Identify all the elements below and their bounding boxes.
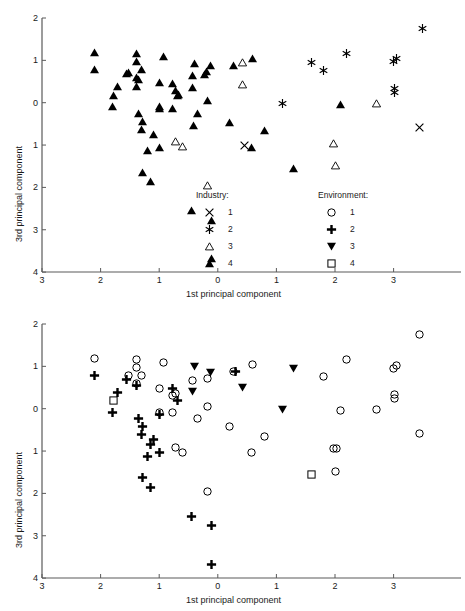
data-point-asterisk xyxy=(306,57,317,68)
data-point-triangle-up-filled xyxy=(187,70,198,81)
data-point-circle-open xyxy=(341,354,352,365)
legend-marker-triangle-down-filled xyxy=(326,240,340,252)
data-point-triangle-up-filled xyxy=(107,101,118,112)
legend-title: Industry: xyxy=(196,190,229,200)
data-point-asterisk xyxy=(204,224,215,235)
data-point-triangle-down-filled xyxy=(205,367,216,378)
data-point-triangle-up-filled xyxy=(142,145,153,156)
data-point-triangle-up-filled xyxy=(228,60,239,71)
data-point-circle-open xyxy=(259,431,270,442)
data-point-cross-x xyxy=(204,207,215,218)
data-point-circle-open xyxy=(202,401,213,412)
data-point-plus-filled xyxy=(326,224,337,235)
legend-marker-plus-filled xyxy=(326,223,340,235)
data-point-circle-open xyxy=(247,359,258,370)
legend-label: 1 xyxy=(350,207,355,217)
legend-label: 1 xyxy=(228,207,233,217)
data-point-triangle-up-filled xyxy=(259,125,270,136)
data-point-circle-open xyxy=(335,405,346,416)
legend-label: 3 xyxy=(350,241,355,251)
data-point-asterisk xyxy=(341,48,352,59)
data-point-asterisk xyxy=(388,56,399,67)
data-point-triangle-down-filled xyxy=(326,241,337,252)
data-point-triangle-up-open xyxy=(328,138,339,149)
legend-label: 2 xyxy=(228,224,233,234)
data-point-triangle-up-filled xyxy=(202,95,213,106)
data-point-circle-open xyxy=(371,404,382,415)
data-point-circle-open xyxy=(388,363,399,374)
data-point-square-open xyxy=(306,469,317,480)
data-point-triangle-up-filled xyxy=(154,77,165,88)
data-point-asterisk xyxy=(417,23,428,34)
data-point-asterisk xyxy=(277,98,288,109)
legend-item: 4 xyxy=(326,257,355,269)
legend-marker-cross-x xyxy=(204,206,218,218)
legend-item: 2 xyxy=(326,223,355,235)
legend-item: 3 xyxy=(326,240,355,252)
legend-marker-circle-open xyxy=(326,206,340,218)
legend-marker-triangle-up-filled xyxy=(204,257,218,269)
data-point-plus-filled xyxy=(186,511,197,522)
data-point-cross-x xyxy=(414,122,425,133)
data-point-plus-filled xyxy=(89,370,100,381)
legend-label: 4 xyxy=(228,258,233,268)
data-point-triangle-up-filled xyxy=(189,58,200,69)
data-point-triangle-up-open xyxy=(177,141,188,152)
data-point-triangle-down-filled xyxy=(277,404,288,415)
data-point-triangle-up-filled xyxy=(154,142,165,153)
data-point-plus-filled xyxy=(107,407,118,418)
chart-panel-bottom: 321012321012341st principal component3rd… xyxy=(0,306,465,611)
data-point-circle-open xyxy=(192,413,203,424)
data-point-plus-filled xyxy=(206,520,217,531)
data-point-triangle-up-filled xyxy=(89,64,100,75)
data-point-asterisk xyxy=(389,87,400,98)
data-point-triangle-up-filled xyxy=(172,90,183,101)
data-point-circle-open xyxy=(330,466,341,477)
data-point-triangle-up-filled xyxy=(246,142,257,153)
data-point-triangle-up-filled xyxy=(108,90,119,101)
data-point-circle-open xyxy=(154,383,165,394)
data-point-circle-open xyxy=(414,428,425,439)
data-point-circle-open xyxy=(202,486,213,497)
legend-label: 2 xyxy=(350,224,355,234)
data-point-triangle-up-filled xyxy=(201,66,212,77)
legend-item: 1 xyxy=(204,206,233,218)
data-point-circle-open xyxy=(414,329,425,340)
data-point-circle-open xyxy=(224,421,235,432)
data-point-triangle-up-open xyxy=(204,241,215,252)
legend-item: 4 xyxy=(204,257,233,269)
data-point-triangle-up-open xyxy=(237,79,248,90)
legend-marker-square-open xyxy=(326,257,340,269)
data-point-square-open xyxy=(108,395,119,406)
data-point-triangle-up-filled xyxy=(89,47,100,58)
data-point-triangle-up-filled xyxy=(247,53,258,64)
data-point-circle-open xyxy=(326,207,337,218)
plot-area-top: 321012321012341st principal component3rd… xyxy=(0,0,465,305)
data-point-plus-filled xyxy=(145,482,156,493)
legend-marker-triangle-up-open xyxy=(204,240,218,252)
data-point-circle-open xyxy=(158,357,169,368)
data-point-triangle-down-filled xyxy=(288,363,299,374)
data-point-circle-open xyxy=(246,447,257,458)
legend-label: 4 xyxy=(350,258,355,268)
data-point-triangle-up-filled xyxy=(335,99,346,110)
data-point-triangle-up-filled xyxy=(136,124,147,135)
data-point-triangle-up-filled xyxy=(186,205,197,216)
data-point-plus-filled xyxy=(154,409,165,420)
legend-item: 3 xyxy=(204,240,233,252)
legend-item: 1 xyxy=(326,206,355,218)
data-point-plus-filled xyxy=(154,447,165,458)
data-point-triangle-up-filled xyxy=(145,176,156,187)
data-point-circle-open xyxy=(89,353,100,364)
data-point-triangle-down-filled xyxy=(237,382,248,393)
data-point-triangle-up-filled xyxy=(288,163,299,174)
data-point-triangle-up-open xyxy=(330,160,341,171)
data-point-triangle-up-open xyxy=(371,98,382,109)
legend-label: 3 xyxy=(228,241,233,251)
data-point-circle-open xyxy=(167,407,178,418)
legend-item: 2 xyxy=(204,223,233,235)
data-point-plus-filled xyxy=(172,395,183,406)
data-point-plus-filled xyxy=(142,451,153,462)
data-point-triangle-up-filled xyxy=(204,258,215,269)
data-point-triangle-down-filled xyxy=(187,386,198,397)
